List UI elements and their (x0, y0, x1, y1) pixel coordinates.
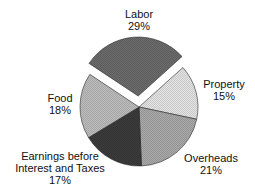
label-property-name: Property (203, 78, 245, 90)
label-labor: Labor 29% (125, 8, 153, 32)
label-food-pct: 18% (47, 104, 72, 116)
label-ebit: Earnings before Interest and Taxes 17% (15, 150, 105, 186)
label-food-name: Food (47, 92, 72, 104)
label-ebit-line2: Interest and Taxes (15, 162, 105, 174)
label-property: Property 15% (203, 78, 245, 102)
label-property-pct: 15% (203, 90, 245, 102)
label-overheads-name: Overheads (184, 152, 238, 164)
pie-chart: Labor 29% Property 15% Overheads 21% Ear… (0, 0, 255, 192)
label-ebit-line1: Earnings before (15, 150, 105, 162)
label-overheads: Overheads 21% (184, 152, 238, 176)
label-ebit-pct: 17% (15, 174, 105, 186)
label-overheads-pct: 21% (184, 164, 238, 176)
label-labor-pct: 29% (125, 20, 153, 32)
label-food: Food 18% (47, 92, 72, 116)
label-labor-name: Labor (125, 8, 153, 20)
